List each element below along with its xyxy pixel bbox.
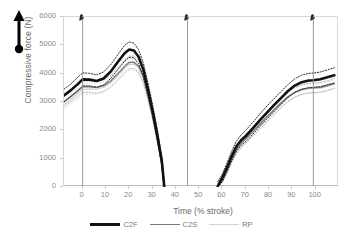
foot-marker-icon xyxy=(182,8,191,17)
series-line-rp xyxy=(64,64,334,187)
legend-swatch-rp xyxy=(209,224,239,225)
x-tick-label: 0 xyxy=(72,190,92,199)
x-tick-label: 30 xyxy=(142,190,162,199)
series-band-c2f xyxy=(64,42,334,182)
x-tick-mark xyxy=(221,186,222,189)
foot-marker-icon xyxy=(77,8,86,17)
legend-item-c2s: C2S xyxy=(150,220,198,229)
x-tick-label: 50 xyxy=(188,190,208,199)
x-tick-label: 40 xyxy=(165,190,185,199)
y-tick-label: 3000 xyxy=(26,96,56,105)
x-tick-mark xyxy=(245,186,246,189)
x-tick-mark xyxy=(105,186,106,189)
series-line-c2f xyxy=(64,50,334,187)
x-tick-mark xyxy=(315,186,316,189)
chart-legend: C2FC2SRP xyxy=(0,220,343,229)
y-tick-label: 2000 xyxy=(26,124,56,133)
legend-swatch-c2s xyxy=(150,224,180,226)
series-line-c2s xyxy=(64,62,334,186)
legend-label-rp: RP xyxy=(242,220,252,229)
x-tick-mark xyxy=(291,186,292,189)
legend-item-c2f: C2F xyxy=(90,220,137,229)
x-tick-label: 10 xyxy=(95,190,115,199)
x-tick-label: 70 xyxy=(235,190,255,199)
x-tick-label: 100 xyxy=(305,190,325,199)
x-tick-label: 20 xyxy=(118,190,138,199)
x-tick-mark xyxy=(268,186,269,189)
x-tick-mark xyxy=(198,186,199,189)
x-tick-mark xyxy=(175,186,176,189)
y-tick-label: 1000 xyxy=(26,153,56,162)
series-band-c2s xyxy=(64,56,334,183)
foot-marker-icon xyxy=(308,8,317,17)
x-tick-mark xyxy=(82,186,83,189)
x-tick-label: 60 xyxy=(211,190,231,199)
legend-swatch-c2f xyxy=(90,223,120,226)
y-tick-label: 4000 xyxy=(26,68,56,77)
x-tick-mark xyxy=(128,186,129,189)
legend-label-c2s: C2S xyxy=(183,220,198,229)
x-axis-title: Time (% stroke) xyxy=(63,206,343,216)
y-tick-label: 0 xyxy=(26,181,56,190)
y-tick-label: 6000 xyxy=(26,11,56,20)
legend-label-c2f: C2F xyxy=(123,220,137,229)
x-tick-mark xyxy=(152,186,153,189)
x-tick-label: 90 xyxy=(281,190,301,199)
plot-area xyxy=(63,16,338,186)
y-tick-label: 5000 xyxy=(26,39,56,48)
legend-item-rp: RP xyxy=(209,220,252,229)
y-tick-mark xyxy=(60,186,63,187)
chart-figure: Compressive force (N) 010002000300040005… xyxy=(0,0,343,239)
x-tick-label: 80 xyxy=(258,190,278,199)
